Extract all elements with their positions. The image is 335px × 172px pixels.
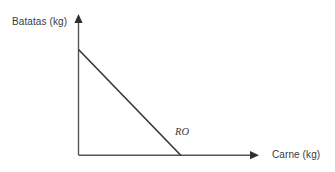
x-axis-label: Carne (kg) <box>272 149 320 161</box>
x-axis-arrowhead-icon <box>250 151 259 159</box>
y-axis <box>74 14 82 155</box>
x-axis <box>79 151 260 159</box>
budget-constraint-line <box>79 50 181 155</box>
budget-line-label: RO <box>175 126 189 137</box>
y-axis-label: Batatas (kg) <box>12 16 67 28</box>
ro-line-segment <box>79 50 181 155</box>
chart-canvas: Batatas (kg) Carne (kg) RO <box>0 0 335 172</box>
y-axis-arrowhead-icon <box>74 14 82 23</box>
